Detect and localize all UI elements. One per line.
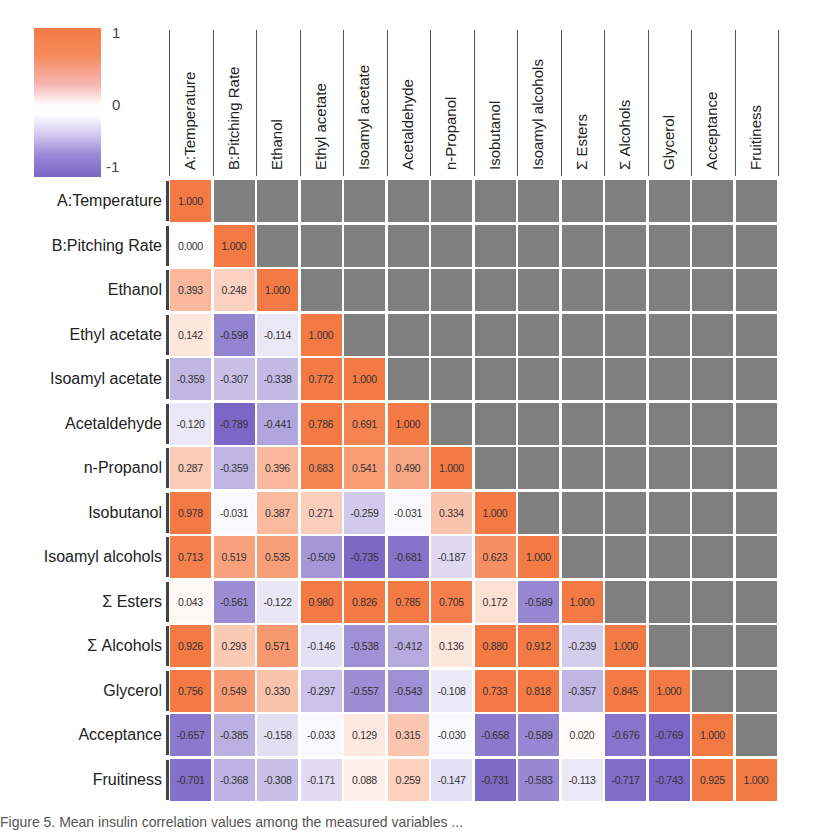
color-scale-bar <box>34 28 101 177</box>
heatmap-cell: -0.120 <box>170 403 211 445</box>
row-divider <box>166 181 169 221</box>
masked-cell <box>692 269 733 311</box>
heatmap-cell: -0.171 <box>301 759 342 801</box>
masked-cell <box>692 403 733 445</box>
heatmap-cell: 0.490 <box>388 447 429 489</box>
column-header: Ethyl acetate <box>300 30 343 176</box>
column-header-label: B:Pitching Rate <box>225 67 242 170</box>
heatmap-cell: -0.589 <box>518 581 559 623</box>
heatmap-cell: 0.142 <box>170 314 211 356</box>
row-label: Acceptance <box>0 713 162 757</box>
masked-cell <box>475 225 516 267</box>
heatmap-cell: 0.519 <box>214 536 255 578</box>
heatmap-cell: -0.368 <box>214 759 255 801</box>
masked-cell <box>562 403 603 445</box>
heatmap-cell: -0.031 <box>214 492 255 534</box>
row-label: Acetaldehyde <box>0 402 162 446</box>
masked-cell <box>562 492 603 534</box>
masked-cell <box>605 403 646 445</box>
heatmap-cell: 1.000 <box>692 714 733 756</box>
row-divider <box>166 537 169 577</box>
masked-cell <box>344 225 385 267</box>
heatmap-cell: -0.187 <box>431 536 472 578</box>
row-divider <box>166 448 169 488</box>
column-header-label: Σ Alcohols <box>616 100 633 170</box>
masked-cell <box>431 358 472 400</box>
masked-cell <box>649 536 690 578</box>
figure-caption: Figure 5. Mean insulin correlation value… <box>0 814 813 830</box>
masked-cell <box>736 625 777 667</box>
masked-cell <box>562 314 603 356</box>
column-header: B:Pitching Rate <box>213 30 256 176</box>
masked-cell <box>475 403 516 445</box>
heatmap-cell: 1.000 <box>301 314 342 356</box>
masked-cell <box>736 581 777 623</box>
column-header: Isoamyl alcohols <box>517 30 560 176</box>
masked-cell <box>475 269 516 311</box>
masked-cell <box>605 447 646 489</box>
masked-cell <box>692 447 733 489</box>
row-label: A:Temperature <box>0 179 162 223</box>
column-header: n-Propanol <box>430 30 473 176</box>
heatmap-cell: -0.731 <box>475 759 516 801</box>
heatmap-cell: 0.396 <box>257 447 298 489</box>
heatmap-cell: 0.334 <box>431 492 472 534</box>
masked-cell <box>649 314 690 356</box>
heatmap-cell: -0.031 <box>388 492 429 534</box>
heatmap-cell: 0.043 <box>170 581 211 623</box>
heatmap-cell: -0.561 <box>214 581 255 623</box>
column-header-label: Isobutanol <box>486 101 503 170</box>
masked-cell <box>605 225 646 267</box>
masked-cell <box>649 358 690 400</box>
row-label: Isobutanol <box>0 491 162 535</box>
heatmap-cell: 0.733 <box>475 670 516 712</box>
masked-cell <box>692 625 733 667</box>
heatmap-cell: 0.926 <box>170 625 211 667</box>
masked-cell <box>431 269 472 311</box>
legend-max-label: 1 <box>112 24 120 41</box>
heatmap-cell: 0.387 <box>257 492 298 534</box>
masked-cell <box>475 314 516 356</box>
masked-cell <box>692 225 733 267</box>
heatmap-cell: 0.129 <box>344 714 385 756</box>
row-divider <box>166 404 169 444</box>
column-header: Ethanol <box>256 30 299 176</box>
row-divider <box>166 626 169 666</box>
column-header-label: Fruitiness <box>747 105 764 170</box>
heatmap-cell: -0.735 <box>344 536 385 578</box>
heatmap-cell: -0.239 <box>562 625 603 667</box>
masked-cell <box>475 180 516 222</box>
masked-cell <box>649 269 690 311</box>
heatmap-cell: 0.756 <box>170 670 211 712</box>
masked-cell <box>605 536 646 578</box>
column-header: Acetaldehyde <box>387 30 430 176</box>
row-label: Σ Esters <box>0 580 162 624</box>
masked-cell <box>605 269 646 311</box>
heatmap-cell: -0.147 <box>431 759 472 801</box>
heatmap-cell: 0.000 <box>170 225 211 267</box>
column-header-label: Ethyl acetate <box>312 83 329 170</box>
masked-cell <box>736 225 777 267</box>
row-label: Ethyl acetate <box>0 313 162 357</box>
heatmap-cell: -0.385 <box>214 714 255 756</box>
masked-cell <box>562 180 603 222</box>
masked-cell <box>301 225 342 267</box>
masked-cell <box>736 403 777 445</box>
masked-cell <box>431 314 472 356</box>
masked-cell <box>562 536 603 578</box>
row-divider <box>166 715 169 755</box>
masked-cell <box>605 581 646 623</box>
row-label: Isoamyl acetate <box>0 357 162 401</box>
masked-cell <box>518 269 559 311</box>
heatmap-cell: 0.786 <box>301 403 342 445</box>
column-header: Isobutanol <box>474 30 517 176</box>
heatmap-cell: -0.701 <box>170 759 211 801</box>
heatmap-cell: -0.359 <box>170 358 211 400</box>
masked-cell <box>562 358 603 400</box>
masked-cell <box>692 314 733 356</box>
heatmap-cell: -0.158 <box>257 714 298 756</box>
heatmap-cell: 0.785 <box>388 581 429 623</box>
masked-cell <box>649 447 690 489</box>
masked-cell <box>431 403 472 445</box>
heatmap-cell: 0.845 <box>605 670 646 712</box>
